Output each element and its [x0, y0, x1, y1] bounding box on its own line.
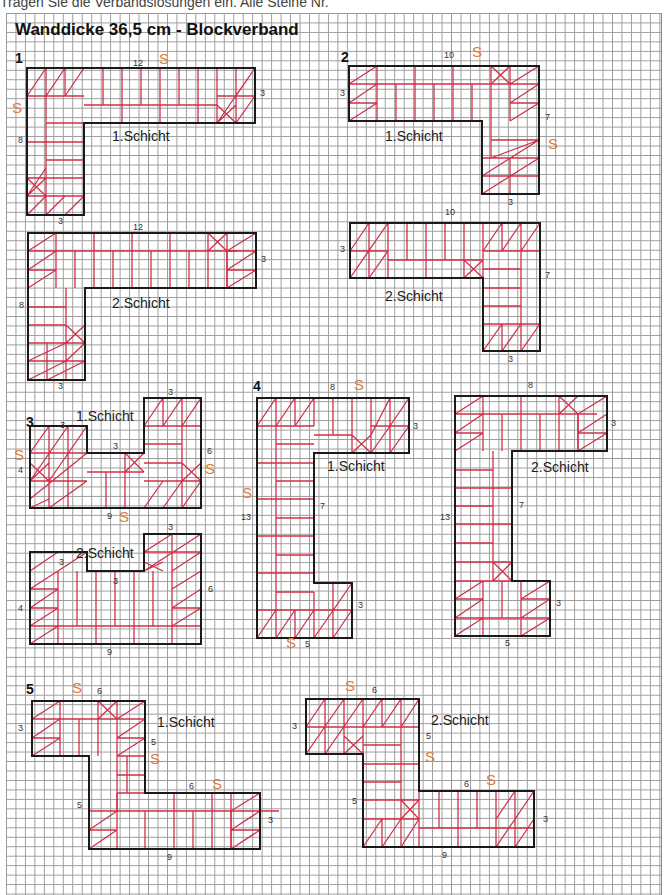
s-marker: S [159, 50, 169, 67]
task5-layer1-drawing [32, 701, 260, 851]
dim-label: 8 [330, 382, 335, 392]
dim-label: 6 [189, 781, 194, 791]
layer-label: 1.Schicht [76, 408, 134, 424]
task4-layer2-drawing [455, 396, 607, 636]
dim-label: 3 [508, 197, 513, 207]
dim-label: 5 [505, 638, 510, 648]
instruction-text: Tragen Sie die Verbandslösungen ein. All… [0, 0, 329, 10]
s-marker: S [14, 446, 24, 463]
dim-label: 3 [611, 418, 616, 428]
dim-label: 3 [340, 244, 345, 254]
dim-label: 3 [18, 723, 23, 733]
dim-label: 5 [151, 737, 156, 747]
dim-label: 9 [167, 852, 172, 862]
s-marker: S [242, 484, 252, 501]
dim-label: 8 [19, 300, 24, 310]
s-marker: S [150, 750, 160, 767]
dim-label: 6 [464, 779, 469, 789]
s-marker: S [72, 679, 82, 696]
dim-label: 3 [60, 420, 65, 430]
layer-label: 1.Schicht [385, 128, 443, 144]
dim-label: 3 [413, 421, 418, 431]
dim-label: 3 [113, 441, 118, 451]
dim-label: 3 [292, 721, 297, 731]
dim-label: 3 [168, 387, 173, 397]
task2-layer2-drawing [350, 223, 540, 355]
dim-label: 5 [305, 639, 310, 649]
dim-label: 6 [208, 584, 213, 594]
dim-label: 3 [260, 88, 265, 98]
dim-label: 3 [556, 598, 561, 608]
layer-label: 2.Schicht [531, 459, 589, 475]
dim-label: 3 [543, 814, 548, 824]
task5-layer2-drawing [306, 699, 534, 849]
dim-label: 10 [445, 207, 455, 217]
layer-label: 2.Schicht [76, 545, 134, 561]
layer-label: 2.Schicht [431, 712, 489, 728]
dim-label: 8 [18, 135, 23, 145]
s-marker: S [286, 634, 296, 651]
dim-label: 3 [58, 381, 63, 391]
dim-label: 3 [358, 600, 363, 610]
s-marker: S [212, 775, 222, 792]
s-marker: S [486, 771, 496, 788]
task-number-2: 2 [341, 49, 349, 65]
dim-label: 12 [133, 222, 143, 232]
layer-label: 1.Schicht [112, 128, 170, 144]
layer-label: 2.Schicht [112, 295, 170, 311]
dim-label: 3 [113, 576, 118, 586]
dim-label: 7 [519, 500, 524, 510]
dim-label: 7 [545, 112, 550, 122]
dim-label: 9 [107, 647, 112, 657]
layer-label: 1.Schicht [157, 714, 215, 730]
dim-label: 3 [508, 354, 513, 364]
dim-label: 3 [59, 557, 64, 567]
dim-label: 3 [261, 254, 266, 264]
dim-label: 10 [444, 50, 454, 60]
dim-label: 7 [545, 270, 550, 280]
dim-label: 8 [528, 380, 533, 390]
dim-label: 3 [340, 88, 345, 98]
dim-label: 3 [58, 216, 63, 226]
s-marker: S [425, 748, 435, 765]
s-marker: S [345, 677, 355, 694]
page-title: Wanddicke 36,5 cm - Blockverband [15, 20, 299, 40]
s-marker: S [119, 508, 129, 525]
dim-label: 6 [97, 686, 102, 696]
dim-label: 5 [426, 731, 431, 741]
dim-label: 13 [440, 512, 450, 522]
dim-label: 6 [207, 446, 212, 456]
task4-layer1-drawing [257, 398, 409, 638]
dim-label: 12 [133, 58, 143, 68]
layer-label: 2.Schicht [385, 288, 443, 304]
s-marker: S [205, 460, 215, 477]
task-number-1: 1 [15, 50, 23, 66]
task-number-4: 4 [253, 378, 261, 394]
dim-label: 3 [268, 815, 273, 825]
s-marker: S [472, 43, 482, 60]
dim-label: 7 [320, 501, 325, 511]
dim-label: 9 [442, 850, 447, 860]
dim-label: 3 [168, 522, 173, 532]
s-marker: S [12, 99, 22, 116]
dim-label: 5 [352, 796, 357, 806]
s-marker: S [548, 135, 558, 152]
dim-label: 4 [18, 603, 23, 613]
dim-label: 13 [241, 512, 251, 522]
task2-layer1-drawing [349, 66, 539, 198]
task-number-5: 5 [26, 681, 34, 697]
dim-label: 5 [77, 800, 82, 810]
dim-label: 9 [107, 511, 112, 521]
s-marker: S [354, 376, 364, 393]
dim-label: 4 [18, 465, 23, 475]
dim-label: 6 [372, 685, 377, 695]
layer-label: 1.Schicht [327, 458, 385, 474]
